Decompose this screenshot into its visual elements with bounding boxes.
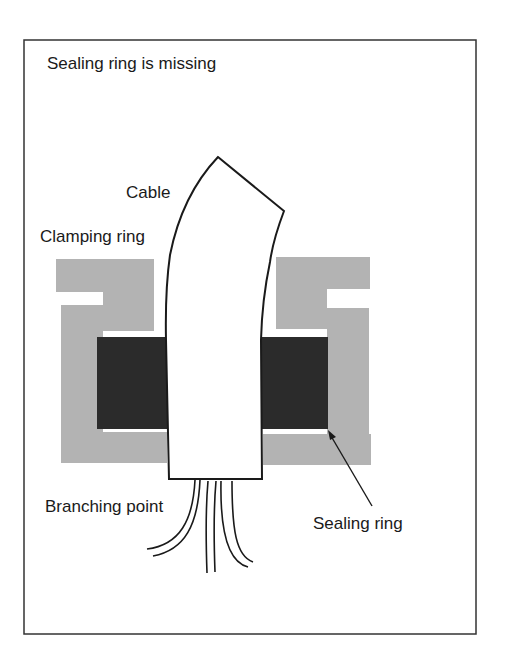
clamping-ring-label: Clamping ring: [40, 228, 145, 245]
sealing-ring-label: Sealing ring: [313, 515, 403, 532]
diagram-svg: [0, 0, 505, 670]
diagram-title: Sealing ring is missing: [47, 55, 216, 72]
left-sealing-ring: [97, 337, 167, 429]
right-sealing-ring: [259, 337, 328, 429]
diagram-canvas: Sealing ring is missing Cable Clamping r…: [0, 0, 505, 670]
cable-label: Cable: [126, 184, 170, 201]
branching-point-label: Branching point: [45, 498, 163, 515]
